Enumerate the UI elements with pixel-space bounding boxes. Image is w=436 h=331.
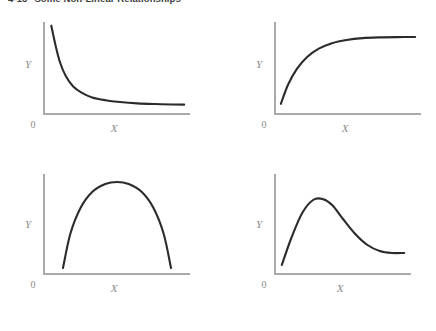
chart-axes-3 bbox=[44, 174, 190, 274]
chart-panel-1: Y X 0 bbox=[14, 18, 190, 136]
y-axis-label-3: Y bbox=[25, 218, 33, 230]
y-axis-label-1: Y bbox=[25, 58, 33, 70]
y-axis-label-2: Y bbox=[256, 58, 264, 70]
x-axis-label-4: X bbox=[336, 282, 345, 294]
chart-curve-4 bbox=[282, 198, 404, 265]
x-axis-label-1: X bbox=[110, 122, 119, 134]
chart-curve-1 bbox=[51, 26, 184, 105]
chart-svg-2: Y X 0 bbox=[245, 18, 421, 136]
figure-root: 4-13Some Non-Linear Relationships Y X 0 … bbox=[0, 0, 436, 331]
origin-label-1: 0 bbox=[31, 119, 36, 130]
chart-panel-3: Y X 0 bbox=[14, 170, 190, 296]
origin-label-2: 0 bbox=[262, 119, 267, 130]
x-axis-label-2: X bbox=[341, 122, 350, 134]
chart-axes-4 bbox=[275, 174, 411, 274]
chart-svg-1: Y X 0 bbox=[14, 18, 190, 136]
y-axis-label-4: Y bbox=[256, 218, 264, 230]
chart-axes-1 bbox=[44, 22, 190, 114]
origin-label-4: 0 bbox=[262, 279, 267, 290]
figure-number: 4-13 bbox=[8, 0, 27, 4]
chart-panel-4: Y X 0 bbox=[245, 170, 411, 296]
x-axis-label-3: X bbox=[110, 282, 119, 294]
chart-curve-3 bbox=[63, 182, 171, 268]
figure-title: 4-13Some Non-Linear Relationships bbox=[8, 0, 308, 5]
chart-svg-4: Y X 0 bbox=[245, 170, 411, 296]
chart-panel-2: Y X 0 bbox=[245, 18, 421, 136]
figure-title-text: Some Non-Linear Relationships bbox=[34, 0, 180, 4]
origin-label-3: 0 bbox=[31, 279, 36, 290]
chart-curve-2 bbox=[281, 37, 415, 104]
chart-svg-3: Y X 0 bbox=[14, 170, 190, 296]
